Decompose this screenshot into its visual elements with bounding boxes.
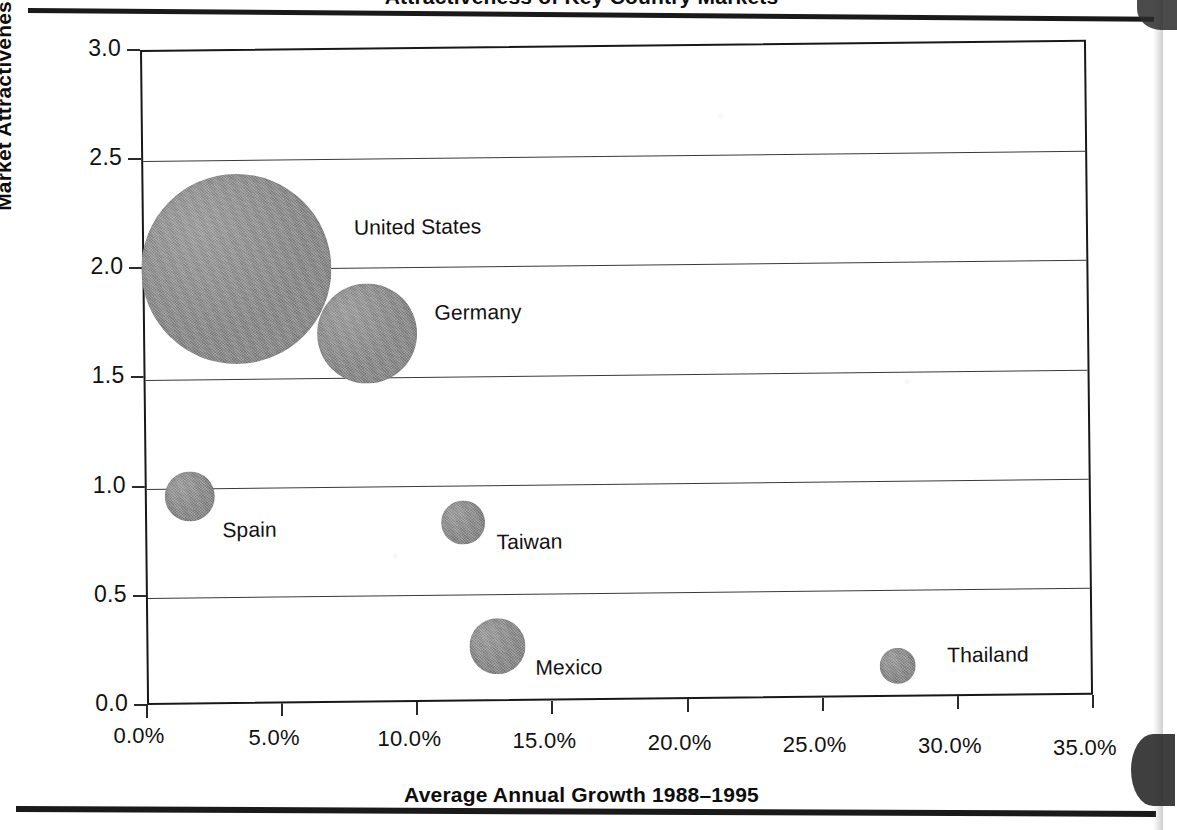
y-tick-label: 1.0 (52, 472, 126, 499)
bubble-spain[interactable] (165, 472, 216, 523)
y-tick-label: 0.5 (53, 581, 127, 608)
bubble-label-thailand: Thailand (947, 643, 1029, 668)
page-rule-bottom (16, 806, 1156, 817)
y-tick-mark (132, 486, 145, 488)
x-tick-mark (957, 696, 959, 709)
x-tick-label: 5.0% (219, 725, 329, 751)
y-tick-label: 3.0 (47, 35, 121, 62)
x-tick-label: 20.0% (625, 730, 735, 756)
gridline (148, 588, 1090, 599)
bubble-group: United StatesGermanySpainTaiwanMexicoTha… (142, 42, 1084, 52)
x-tick-mark (416, 702, 418, 715)
y-tick-label: 2.0 (49, 253, 123, 280)
plot-area: United StatesGermanySpainTaiwanMexicoTha… (140, 40, 1093, 705)
x-tick-label: 30.0% (895, 733, 1005, 759)
x-tick-label: 25.0% (760, 732, 870, 758)
x-tick-mark (146, 705, 148, 718)
y-tick-mark (128, 158, 141, 160)
x-tick-mark (687, 699, 689, 712)
x-tick-mark (1092, 695, 1094, 708)
x-tick-label: 15.0% (489, 728, 599, 754)
bubble-label-germany: Germany (434, 300, 521, 325)
bubble-taiwan[interactable] (441, 500, 485, 544)
gridline (143, 151, 1085, 162)
x-tick-label: 35.0% (1030, 735, 1140, 761)
bubble-mexico[interactable] (469, 618, 526, 675)
y-axis-title: Market Attractiveness (0, 0, 16, 250)
page-rule-top (28, 8, 1154, 22)
bubble-label-taiwan: Taiwan (496, 529, 562, 554)
y-tick-label: 2.5 (48, 144, 122, 171)
page-corner-mark-top (1137, 0, 1177, 30)
x-tick-mark (822, 698, 824, 711)
y-tick-mark (131, 376, 144, 378)
gridline-group (142, 42, 1084, 52)
x-tick-label: 0.0% (84, 723, 194, 749)
x-axis-title: Average Annual Growth 1988–1995 (0, 783, 1163, 807)
x-tick-mark (551, 701, 553, 714)
y-tick-mark (127, 49, 140, 51)
bubble-label-united-states: United States (354, 215, 482, 240)
y-tick-label: 0.0 (54, 690, 128, 717)
x-tick-label: 10.0% (354, 726, 464, 752)
chart-title: Attractiveness of Key Country Markets (0, 0, 1163, 9)
page-edge-shadow (1153, 0, 1163, 830)
y-tick-mark (133, 595, 146, 597)
bubble-thailand[interactable] (879, 648, 915, 684)
gridline (146, 369, 1088, 380)
bubble-united-states[interactable] (140, 173, 332, 365)
bubble-label-mexico: Mexico (535, 655, 602, 680)
gridline (147, 478, 1089, 489)
x-tick-mark (281, 703, 283, 716)
y-tick-label: 1.5 (51, 362, 125, 389)
bubble-label-spain: Spain (222, 518, 276, 543)
bubble-germany[interactable] (316, 283, 417, 384)
